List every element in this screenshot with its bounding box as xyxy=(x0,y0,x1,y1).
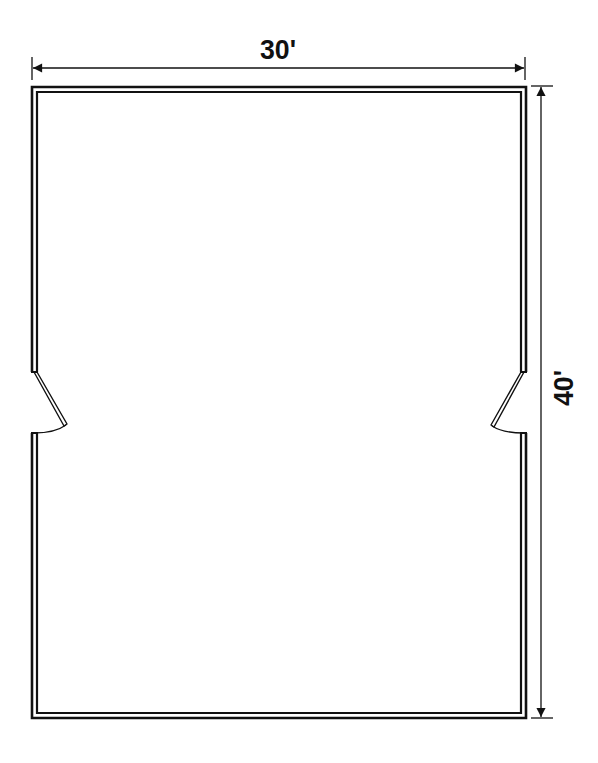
outer-wall-bottom xyxy=(32,433,526,718)
left-door-swing-arc xyxy=(34,425,66,433)
left-door xyxy=(34,372,67,433)
right-door xyxy=(491,372,524,433)
left-door-leaf xyxy=(34,372,67,426)
height-dimension: 40' xyxy=(531,86,579,718)
height-label: 40' xyxy=(549,370,579,406)
right-door-swing-arc xyxy=(492,426,524,433)
inner-wall-top xyxy=(37,92,521,372)
floor-plan-diagram: 30' 40' xyxy=(0,0,598,763)
outer-wall-top xyxy=(32,87,526,372)
right-door-leaf xyxy=(491,372,524,427)
width-dimension: 30' xyxy=(32,35,525,80)
inner-wall-bottom xyxy=(37,433,521,713)
width-label: 30' xyxy=(260,35,296,65)
walls xyxy=(31,87,527,718)
